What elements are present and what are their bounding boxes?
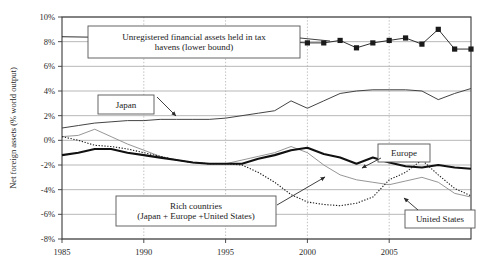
y-tick-label-4: 2% (44, 111, 55, 121)
series-marker-tax-havens (338, 38, 343, 43)
x-tick-label-1: 1990 (135, 247, 152, 257)
annotation-united-states: United States (405, 210, 475, 228)
y-tick-label-1: 8% (44, 37, 55, 47)
series-marker-tax-havens (387, 38, 392, 43)
annotation-europe: Europe (378, 144, 430, 162)
x-tick-label-3: 2000 (299, 247, 316, 257)
annotation-rich-countries: Rich countries(Japan + Europe +United St… (116, 196, 276, 226)
series-marker-tax-havens (468, 46, 473, 51)
annotation-label-tax-havens: havens (lower bound) (155, 42, 233, 52)
x-tick-label-2: 1995 (217, 247, 234, 257)
y-tick-label-2: 6% (44, 61, 55, 71)
annotation-label-tax-havens: Unregistered financial assets held in ta… (122, 32, 266, 42)
series-marker-tax-havens (354, 45, 359, 50)
series-marker-tax-havens (370, 40, 375, 45)
annotation-label-japan: Japan (116, 100, 137, 110)
series-marker-tax-havens (305, 40, 310, 45)
net-foreign-assets-line-chart: 10%8%6%4%2%0%-2%-4%-6%-8%198519901995200… (0, 0, 492, 268)
y-tick-label-8: -6% (41, 209, 55, 219)
series-marker-tax-havens (403, 35, 408, 40)
x-tick-label-0: 1985 (54, 247, 71, 257)
annotation-label-rich-countries: Rich countries (170, 201, 223, 211)
series-marker-tax-havens (452, 46, 457, 51)
y-tick-label-5: 0% (44, 135, 55, 145)
series-marker-tax-havens (436, 27, 441, 32)
y-tick-label-6: -2% (41, 160, 55, 170)
annotation-label-europe: Europe (391, 148, 417, 158)
series-marker-tax-havens (419, 42, 424, 47)
y-tick-label-3: 4% (44, 86, 55, 96)
y-tick-label-9: -8% (41, 234, 55, 244)
annotation-label-united-states: United States (416, 214, 465, 224)
y-tick-label-0: 10% (39, 12, 55, 22)
chart-container: 10%8%6%4%2%0%-2%-4%-6%-8%198519901995200… (0, 0, 492, 268)
y-axis-title: Net foreign assets (% world output) (8, 67, 18, 189)
x-tick-label-4: 2005 (381, 247, 398, 257)
annotation-label-rich-countries: (Japan + Europe +United States) (137, 211, 255, 221)
annotation-tax-havens: Unregistered financial assets held in ta… (88, 26, 300, 58)
annotation-japan: Japan (98, 95, 154, 114)
series-marker-tax-havens (321, 40, 326, 45)
y-tick-label-7: -4% (41, 185, 55, 195)
